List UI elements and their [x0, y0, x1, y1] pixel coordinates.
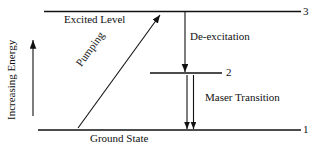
increasing-energy-label: Increasing Energy	[6, 40, 17, 120]
diagram-canvas	[0, 0, 322, 150]
de-excitation-label: De-excitation	[190, 31, 250, 42]
level-3-number: 3	[303, 6, 309, 17]
level-2-number: 2	[226, 67, 232, 78]
level-1-number: 1	[303, 124, 309, 135]
energy-level-diagram: 3 2 1 Excited Level Ground State Pumping…	[0, 0, 322, 150]
ground-state-label: Ground State	[90, 133, 148, 144]
maser-transition-label: Maser Transition	[205, 92, 280, 103]
pumping-arrow	[78, 15, 160, 128]
excited-level-label: Excited Level	[64, 14, 125, 25]
